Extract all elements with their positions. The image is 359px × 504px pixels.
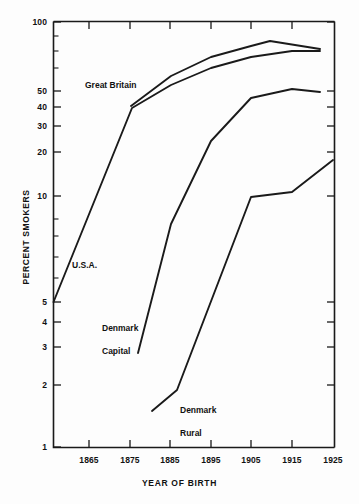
x-tick-label-1895: 1895 [201, 455, 220, 465]
y-axis-right-ticks [327, 22, 335, 385]
series-label-denmark-rural-line1: Denmark [180, 405, 216, 417]
x-tick-label-1885: 1885 [160, 455, 179, 465]
x-tick-label-1865: 1865 [79, 455, 98, 465]
chart-container: 100 50 40 30 20 10 5 4 3 2 1 1865 1875 1… [0, 0, 359, 504]
series-label-denmark-capital-line2: Capital [102, 346, 138, 358]
series-label-denmark-capital: Denmark Capital [102, 311, 138, 369]
series-label-usa: U.S.A. [72, 260, 97, 272]
y-tick-label-40: 40 [18, 102, 47, 112]
y-tick-label-30: 30 [18, 121, 47, 131]
series-label-denmark-capital-line1: Denmark [102, 323, 138, 335]
series-line-denmark-capital [138, 89, 320, 353]
x-tick-label-1925: 1925 [323, 455, 342, 465]
series-label-denmark-rural-line2: Rural [180, 428, 216, 440]
x-axis-title: YEAR OF BIRTH [0, 478, 359, 488]
y-tick-label-1: 1 [18, 442, 47, 452]
y-tick-label-100: 100 [18, 17, 47, 27]
y-tick-label-4: 4 [18, 317, 47, 327]
x-tick-label-1875: 1875 [120, 455, 139, 465]
y-axis-title: PERCENT SMOKERS [21, 167, 31, 307]
x-tick-label-1915: 1915 [282, 455, 301, 465]
series-label-denmark-rural: Denmark Rural [180, 393, 216, 451]
series-line-denmark-rural [152, 160, 333, 411]
y-tick-label-3: 3 [18, 342, 47, 352]
y-tick-label-20: 20 [18, 147, 47, 157]
y-axis-major-ticks [54, 22, 62, 447]
y-tick-label-2: 2 [18, 380, 47, 390]
series-label-great-britain: Great Britain [85, 80, 137, 92]
x-tick-label-1905: 1905 [241, 455, 260, 465]
y-tick-label-50: 50 [18, 86, 47, 96]
